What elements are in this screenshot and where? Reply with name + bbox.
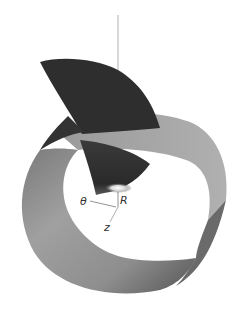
theta-axis (90, 201, 116, 207)
coordinate-axes (90, 192, 118, 222)
specular-highlight (104, 183, 132, 193)
fin-surface (40, 59, 160, 134)
z-label: z (103, 221, 110, 234)
r-label: R (120, 194, 128, 207)
figure-3d-band-diagram: θ R z (0, 0, 244, 313)
theta-label: θ (80, 195, 87, 208)
z-axis (110, 207, 118, 222)
